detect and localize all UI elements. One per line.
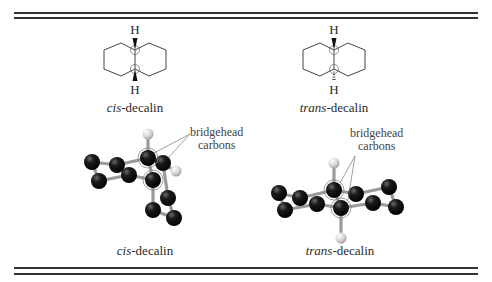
trans-skeletal-caption: trans-decalin: [300, 100, 369, 116]
cis-bottom-h-label: H: [130, 82, 139, 98]
trans-bridgehead-annotation: bridgehead carbons: [350, 127, 403, 153]
bridgehead-carbon-icon: [326, 182, 342, 198]
carbon-atom-icon: [309, 196, 325, 212]
bridgehead-carbon-icon: [145, 172, 161, 188]
trans-ball-stick-model: [271, 156, 404, 244]
bridgehead-carbon-icon: [140, 150, 156, 166]
hydrogen-atom-icon: [143, 129, 154, 140]
decalin-suffix: -decalin: [131, 243, 173, 258]
cis-skeletal-caption: cis-decalin: [107, 100, 163, 116]
decalin-suffix: -decalin: [326, 100, 368, 115]
annotation-line-2: carbons: [190, 139, 243, 152]
cis-prefix: cis: [117, 243, 131, 258]
trans-prefix: trans: [300, 100, 327, 115]
carbon-atom-icon: [271, 185, 287, 201]
cis-ball-stick-model: [84, 129, 190, 227]
hydrogen-atom-icon: [336, 233, 347, 244]
bridgehead-carbon-icon: [333, 200, 349, 216]
carbon-atom-icon: [91, 173, 107, 189]
carbon-atom-icon: [166, 210, 182, 226]
trans-top-h-label: H: [329, 22, 338, 38]
carbon-atom-icon: [292, 190, 308, 206]
trans-prefix: trans: [306, 243, 333, 258]
cis-top-h-label: H: [130, 22, 139, 38]
carbon-atom-icon: [348, 186, 364, 202]
carbon-atom-icon: [84, 154, 100, 170]
trans-model-caption: trans-decalin: [306, 243, 375, 259]
cis-bridgehead-annotation: bridgehead carbons: [190, 126, 243, 152]
annotation-line-2: carbons: [350, 140, 403, 153]
decalin-suffix: -decalin: [332, 243, 374, 258]
cis-model-caption: cis-decalin: [117, 243, 173, 259]
carbon-atom-icon: [277, 202, 293, 218]
carbon-atom-icon: [160, 190, 176, 206]
trans-bottom-h-label: H: [329, 82, 338, 98]
decalin-suffix: -decalin: [121, 100, 163, 115]
wedge-bond-icon: [332, 38, 337, 50]
carbon-atom-icon: [365, 195, 381, 211]
carbon-atom-icon: [381, 179, 397, 195]
decalin-figure: [0, 0, 492, 282]
hydrogen-atom-icon: [171, 166, 182, 177]
carbon-atom-icon: [388, 199, 404, 215]
hydrogen-atom-icon: [329, 158, 340, 169]
carbon-atom-icon: [145, 202, 161, 218]
cis-prefix: cis: [107, 100, 121, 115]
wedge-bond-icon: [133, 38, 138, 50]
carbon-atom-icon: [121, 167, 137, 183]
wedge-bond-icon: [133, 69, 138, 81]
